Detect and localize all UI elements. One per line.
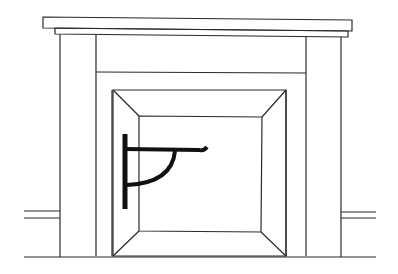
baseboard bbox=[24, 211, 376, 218]
mantel-frieze bbox=[96, 72, 306, 73]
mantel-shelf bbox=[43, 17, 352, 37]
fireplace-drawing bbox=[0, 0, 398, 274]
pilasters bbox=[60, 34, 341, 257]
firebox-opening bbox=[113, 90, 286, 256]
crane-bracket bbox=[125, 134, 207, 209]
